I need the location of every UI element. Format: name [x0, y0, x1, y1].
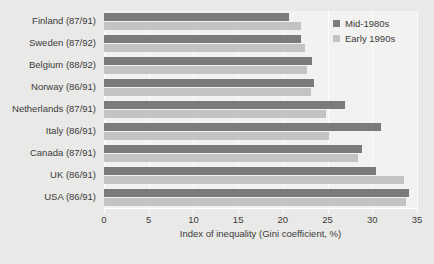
tick-label: 15 [223, 214, 253, 225]
category-label: Netherlands (87/91) [0, 104, 96, 114]
legend-item: Early 1990s [333, 32, 395, 45]
bar [104, 154, 358, 162]
category-label: Sweden (87/92) [0, 38, 96, 48]
tick-label: 0 [89, 214, 119, 225]
bar [104, 66, 307, 74]
bar [104, 110, 326, 118]
bar [104, 22, 301, 30]
chart-legend: Mid-1980sEarly 1990s [333, 17, 395, 47]
legend-swatch-icon [333, 20, 340, 27]
bar-group [104, 167, 417, 187]
tick-mark [328, 209, 329, 213]
tick-mark [149, 209, 150, 213]
category-label: Norway (86/91) [0, 82, 96, 92]
bar-group [104, 123, 417, 143]
bar [104, 123, 381, 131]
bar-group [104, 79, 417, 99]
bar [104, 35, 301, 43]
bar [104, 132, 329, 140]
legend-swatch-icon [333, 35, 340, 42]
tick-label: 20 [268, 214, 298, 225]
tick-label: 30 [357, 214, 387, 225]
category-label: Belgium (88/92) [0, 60, 96, 70]
legend-label: Early 1990s [345, 33, 395, 44]
category-label: Finland (87/91) [0, 16, 96, 26]
category-label: UK (86/91) [0, 170, 96, 180]
category-axis-labels: Finland (87/91)Sweden (87/92)Belgium (88… [0, 11, 100, 209]
tick-mark [283, 209, 284, 213]
legend-label: Mid-1980s [345, 18, 389, 29]
bar [104, 88, 311, 96]
bar-group [104, 101, 417, 121]
tick-label: 35 [402, 214, 432, 225]
tick-mark [193, 209, 194, 213]
category-label: USA (86/91) [0, 192, 96, 202]
bar [104, 57, 312, 65]
tick-label: 5 [134, 214, 164, 225]
x-axis-title: Index of inequality (Gini coefficient, %… [104, 228, 417, 240]
bar [104, 79, 314, 87]
bar [104, 167, 376, 175]
bar [104, 13, 289, 21]
tick-mark [372, 209, 373, 213]
bar-group [104, 145, 417, 165]
legend-item: Mid-1980s [333, 17, 395, 30]
bar-group [104, 57, 417, 77]
category-label: Italy (86/91) [0, 126, 96, 136]
tick-label: 25 [313, 214, 343, 225]
bar [104, 101, 345, 109]
tick-mark [104, 209, 105, 213]
tick-mark [417, 209, 418, 213]
bar [104, 189, 409, 197]
bar-chart: Finland (87/91)Sweden (87/92)Belgium (88… [0, 0, 434, 264]
bar [104, 44, 305, 52]
tick-label: 10 [178, 214, 208, 225]
bar [104, 198, 406, 206]
bar [104, 176, 404, 184]
x-axis-tick-labels: 05101520253035 [104, 214, 417, 227]
tick-mark [238, 209, 239, 213]
category-label: Canada (87/91) [0, 148, 96, 158]
bar [104, 145, 362, 153]
bar-group [104, 189, 417, 209]
gridline [417, 11, 418, 209]
